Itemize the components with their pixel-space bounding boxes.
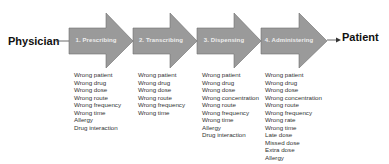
error-list-prescribing: Wrong patient Wrong drug Wrong dose Wron… xyxy=(74,71,121,131)
list-item: Wrong frequency xyxy=(74,101,121,109)
error-list-dispensing: Wrong patient Wrong drug Wrong dose Wron… xyxy=(202,71,259,139)
list-item: Drug interaction xyxy=(74,124,121,132)
list-item: Wrong concentration xyxy=(202,94,259,102)
list-item: Wrong dose xyxy=(138,86,185,94)
list-item: Wrong time xyxy=(138,109,185,117)
process-flow-arrows xyxy=(0,0,389,164)
error-list-administering: Wrong patient Wrong drug Wrong dose Wron… xyxy=(265,71,322,161)
list-item: Wrong patient xyxy=(74,71,121,79)
stage-label-dispensing: 3. Dispensing xyxy=(194,37,254,43)
list-item: Wrong route xyxy=(138,94,185,102)
stage-label-administering: 4. Administering xyxy=(259,37,319,43)
list-item: Allergy xyxy=(74,116,121,124)
list-item: Extra dose xyxy=(265,146,322,154)
list-item: Wrong dose xyxy=(265,86,322,94)
list-item: Wrong route xyxy=(74,94,121,102)
list-item: Wrong route xyxy=(265,101,322,109)
arrowhead-icon xyxy=(336,38,341,43)
list-item: Wrong route xyxy=(202,101,259,109)
list-item: Drug interaction xyxy=(202,131,259,139)
list-item: Wrong frequency xyxy=(202,109,259,117)
list-item: Wrong time xyxy=(202,116,259,124)
list-item: Late dose xyxy=(265,131,322,139)
target-patient: Patient xyxy=(342,31,379,43)
list-item: Wrong drug xyxy=(74,79,121,87)
list-item: Wrong rate xyxy=(265,116,322,124)
list-item: Allergy xyxy=(265,154,322,162)
list-item: Wrong dose xyxy=(202,86,259,94)
list-item: Wrong drug xyxy=(265,79,322,87)
list-item: Wrong frequency xyxy=(265,109,322,117)
list-item: Wrong drug xyxy=(138,79,185,87)
list-item: Allergy xyxy=(202,124,259,132)
stage-label-prescribing: 1. Prescribing xyxy=(66,37,126,43)
list-item: Wrong drug xyxy=(202,79,259,87)
list-item: Wrong dose xyxy=(74,86,121,94)
list-item: Wrong patient xyxy=(138,71,185,79)
list-item: Missed dose xyxy=(265,139,322,147)
list-item: Wrong time xyxy=(265,124,322,132)
list-item: Wrong time xyxy=(74,109,121,117)
list-item: Wrong patient xyxy=(202,71,259,79)
list-item: Wrong concentration xyxy=(265,94,322,102)
list-item: Wrong patient xyxy=(265,71,322,79)
list-item: Wrong frequency xyxy=(138,101,185,109)
error-list-transcribing: Wrong patient Wrong drug Wrong dose Wron… xyxy=(138,71,185,116)
stage-label-transcribing: 2. Transcribing xyxy=(131,37,191,43)
